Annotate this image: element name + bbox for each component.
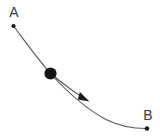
brachistochrone-figure: A B [0, 0, 160, 138]
endpoint-dot-b [145, 126, 149, 130]
point-label-b: B [143, 107, 152, 123]
figure-background [0, 0, 160, 138]
endpoint-dot-a [11, 24, 15, 28]
diagram-canvas: A B [0, 0, 160, 138]
point-label-a: A [9, 4, 19, 20]
sliding-ball [44, 67, 56, 79]
